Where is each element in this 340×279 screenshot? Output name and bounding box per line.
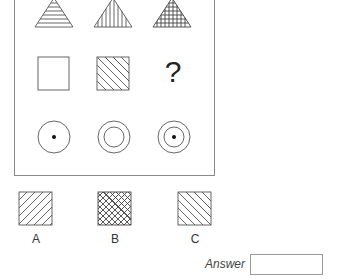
- triangle-vertical-lines-icon: [94, 0, 132, 30]
- option-b-label[interactable]: B: [98, 232, 132, 246]
- triangle-horizontal-lines-icon: [30, 0, 80, 27]
- answer-label: Answer: [205, 257, 245, 271]
- square-diagonal-lines-icon: [97, 41, 154, 114]
- triangle-grid-lines-icon: [150, 0, 195, 30]
- option-b-crosshatch-icon[interactable]: [98, 187, 163, 229]
- option-a-diagonal-up-icon[interactable]: [19, 192, 83, 232]
- double-circle-icon: [98, 121, 130, 153]
- double-circle-dot-icon: [158, 121, 190, 153]
- square-empty-icon: [38, 57, 69, 90]
- circle-dot-icon: [38, 121, 70, 153]
- missing-cell-question-mark: ?: [160, 52, 186, 92]
- option-c-label[interactable]: C: [178, 232, 212, 246]
- answer-input[interactable]: [250, 254, 323, 275]
- option-a-label[interactable]: A: [19, 232, 53, 246]
